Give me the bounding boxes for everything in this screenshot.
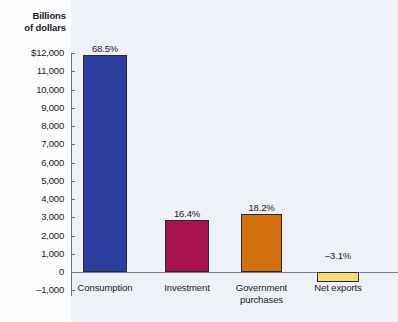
- y-axis-tick-label: $12,000: [0, 48, 64, 58]
- chart-figure: Billions of dollars $12,00011,00010,0009…: [0, 0, 398, 322]
- bar-value-label: 18.2%: [223, 202, 300, 213]
- y-axis-tick-mark: [71, 90, 75, 91]
- y-axis-title-line-2: of dollars: [0, 22, 66, 34]
- bar: [83, 55, 127, 272]
- y-axis-tick-mark: [71, 163, 75, 164]
- bar: [241, 214, 282, 272]
- y-axis-tick-label: 8,000: [0, 121, 64, 131]
- bar: [165, 220, 209, 272]
- y-axis-tick-mark: [71, 71, 75, 72]
- y-axis-tick-mark: [71, 217, 75, 218]
- y-axis-tick-mark: [71, 254, 75, 255]
- y-axis-title: Billions of dollars: [0, 10, 66, 33]
- y-axis-tick-label: 11,000: [0, 66, 64, 76]
- y-axis-tick-mark: [71, 144, 75, 145]
- y-axis-tick-mark: [71, 126, 75, 127]
- y-axis-tick-mark: [71, 272, 75, 273]
- x-axis-category-label-line: purchases: [213, 294, 310, 306]
- y-axis-tick-mark: [71, 108, 75, 109]
- y-axis-tick-mark: [71, 236, 75, 237]
- y-axis-tick-label: 5,000: [0, 176, 64, 186]
- y-axis-tick-label: 1,000: [0, 249, 64, 259]
- x-axis-category-label-line: Net exports: [289, 282, 387, 294]
- y-axis-tick-label: 0: [0, 267, 64, 277]
- y-axis-tick-label: 10,000: [0, 85, 64, 95]
- y-axis-tick-mark: [71, 199, 75, 200]
- bar-value-label: 16.4%: [147, 208, 227, 219]
- x-axis-category-label: Net exports: [289, 282, 387, 294]
- y-axis-tick-label: 4,000: [0, 194, 64, 204]
- y-axis-tick-label: 3,000: [0, 212, 64, 222]
- y-axis-tick-label: 2,000: [0, 231, 64, 241]
- bar-value-label: 68.5%: [65, 43, 145, 54]
- bar: [317, 272, 359, 282]
- y-axis-tick-label: 6,000: [0, 158, 64, 168]
- bar-value-label: –3.1%: [299, 250, 377, 261]
- y-axis-tick-label: 9,000: [0, 103, 64, 113]
- y-axis-tick-label: 7,000: [0, 139, 64, 149]
- y-axis-tick-mark: [71, 181, 75, 182]
- y-axis-title-line-1: Billions: [0, 10, 66, 22]
